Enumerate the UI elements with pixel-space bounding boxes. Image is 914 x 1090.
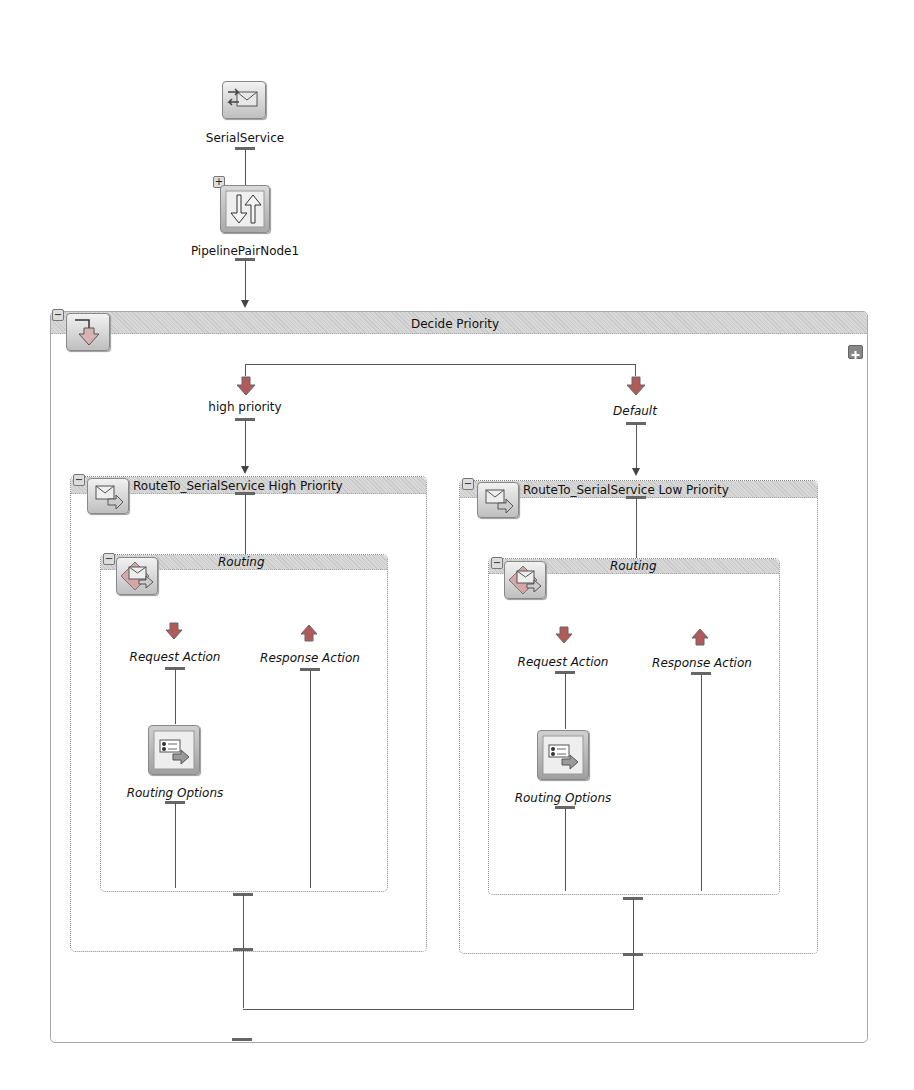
- connector-arrow: [241, 300, 249, 308]
- route-node-title: RouteTo_SerialService High Priority: [133, 479, 343, 493]
- add-branch-button[interactable]: [848, 345, 863, 359]
- routing-options-icon: [538, 731, 588, 779]
- branch-arrow-icon: [236, 376, 256, 396]
- routing-options-icon: [149, 726, 199, 774]
- route-node-icon: [478, 483, 518, 517]
- routing-options-node[interactable]: [148, 725, 200, 775]
- connector-arrow: [241, 466, 249, 474]
- response-arrow-icon: [300, 624, 318, 642]
- routing-options-label[interactable]: Routing Options: [498, 791, 628, 805]
- response-action-label[interactable]: Response Action: [250, 651, 370, 665]
- routing-icon-box[interactable]: [504, 561, 546, 599]
- branch-split-right: [635, 364, 636, 376]
- request-action-label[interactable]: Request Action: [503, 655, 623, 669]
- route-node-icon-box[interactable]: [87, 478, 129, 514]
- routing-collapse-toggle[interactable]: −: [491, 557, 503, 569]
- branch-node-exit-port: [232, 1038, 252, 1041]
- connector: [245, 260, 246, 302]
- proxy-service-node[interactable]: [222, 81, 266, 119]
- connector: [310, 670, 311, 888]
- branch-collapse-toggle[interactable]: −: [52, 309, 64, 321]
- route-node-collapse-toggle[interactable]: −: [462, 478, 474, 490]
- merge-connector-left: [243, 950, 244, 1008]
- routing-action-icon: [117, 558, 157, 594]
- routing-action-low[interactable]: Routing: [488, 558, 780, 895]
- branch-label-default[interactable]: Default: [575, 404, 695, 418]
- connector: [243, 895, 244, 950]
- routing-collapse-toggle[interactable]: −: [103, 553, 115, 565]
- connector: [636, 424, 637, 470]
- connector: [175, 803, 176, 888]
- connector: [701, 674, 702, 891]
- routing-action-icon: [505, 562, 545, 598]
- request-arrow-icon: [555, 626, 573, 644]
- connector: [245, 420, 246, 468]
- connector: [175, 669, 176, 724]
- connector: [245, 149, 246, 186]
- branch-split-left: [245, 364, 246, 376]
- branch-node-icon-box[interactable]: [66, 313, 110, 351]
- response-arrow-icon: [691, 628, 709, 646]
- connector: [565, 808, 566, 891]
- branch-node-title: Decide Priority: [411, 317, 499, 331]
- connector-arrow: [632, 468, 640, 476]
- proxy-service-icon: [223, 82, 265, 118]
- connector: [636, 498, 637, 558]
- proxy-service-label: SerialService: [200, 131, 290, 145]
- routing-options-node[interactable]: [537, 730, 589, 780]
- pipeline-pair-label: PipelinePairNode1: [190, 244, 300, 258]
- routing-title: Routing: [610, 559, 657, 573]
- branch-split-line: [245, 364, 635, 365]
- routing-icon-box[interactable]: [116, 557, 158, 595]
- add-branch-icon: [849, 349, 862, 361]
- connector: [565, 673, 566, 729]
- connector: [633, 899, 634, 954]
- routing-action-high[interactable]: Routing: [100, 554, 388, 892]
- request-arrow-icon: [165, 622, 183, 640]
- pipeline-pair-node[interactable]: [220, 185, 270, 233]
- conditional-branch-icon: [67, 314, 109, 350]
- request-action-label[interactable]: Request Action: [115, 650, 235, 664]
- pipeline-pair-icon: [221, 186, 269, 232]
- merge-connector-right: [633, 955, 634, 1010]
- routing-options-label[interactable]: Routing Options: [110, 786, 240, 800]
- branch-merge-line: [243, 1009, 634, 1010]
- response-action-label[interactable]: Response Action: [642, 656, 762, 670]
- routing-title: Routing: [218, 555, 265, 569]
- branch-label-high-priority[interactable]: high priority: [185, 400, 305, 414]
- route-node-icon-box[interactable]: [477, 482, 519, 518]
- route-node-icon: [88, 479, 128, 513]
- connector: [245, 494, 246, 554]
- branch-arrow-icon: [626, 376, 646, 396]
- route-node-collapse-toggle[interactable]: −: [73, 474, 85, 486]
- route-node-title: RouteTo_SerialService Low Priority: [523, 483, 729, 497]
